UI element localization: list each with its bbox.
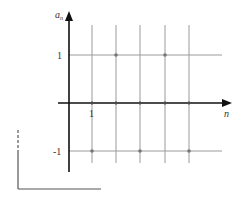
y-axis-label: an (55, 9, 63, 21)
x-tick-label-1: 1 (89, 108, 94, 119)
data-point (114, 53, 118, 57)
y-tick-label-1: 1 (57, 50, 62, 61)
x-axis-arrow-icon (222, 99, 232, 107)
sequence-plot: 1 -1 1 n an (0, 0, 247, 203)
y-axis-arrow-icon (65, 11, 73, 21)
data-point (90, 149, 94, 153)
grid (69, 25, 222, 163)
data-point (138, 149, 142, 153)
corner-bracket (18, 130, 101, 189)
data-point (187, 149, 191, 153)
x-axis-label: n (224, 108, 229, 119)
data-point (163, 53, 167, 57)
axes (58, 18, 226, 172)
y-tick-label-minus1: -1 (53, 146, 61, 157)
